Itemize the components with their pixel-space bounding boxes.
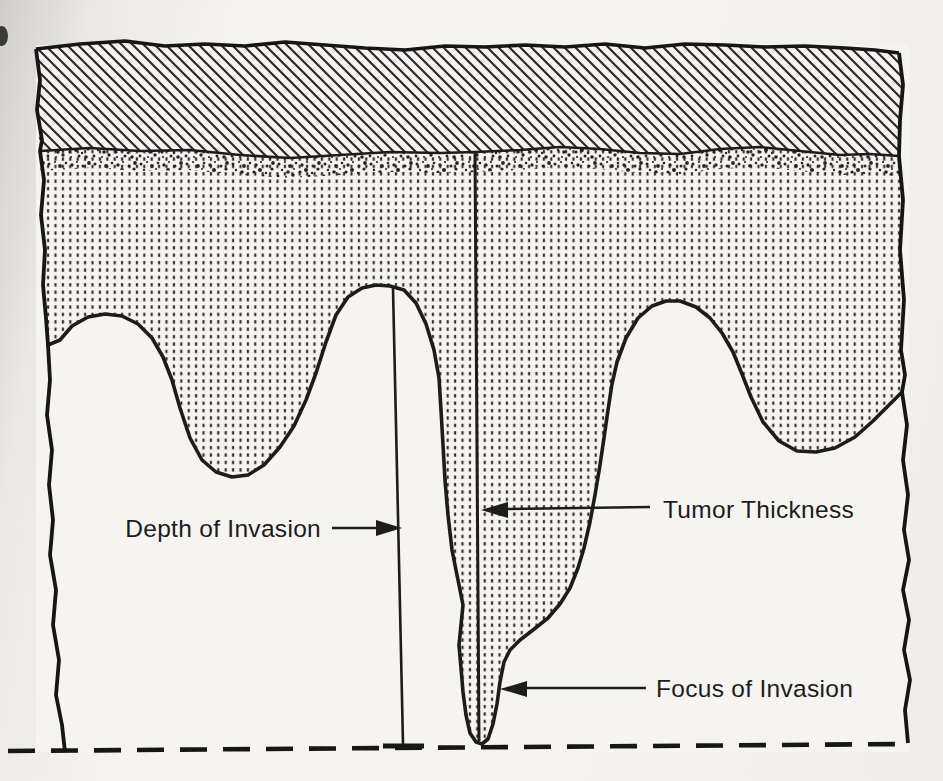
depth-of-invasion-label: Depth of Invasion — [125, 515, 321, 542]
focus-of-invasion-label: Focus of Invasion — [656, 675, 853, 702]
tumor-thickness-label: Tumor Thickness — [663, 496, 854, 523]
keratinized-surface-layer — [36, 41, 901, 158]
scan-artifact-blob — [0, 26, 8, 46]
diagram-page: Depth of Invasion Tumor Thickness Focus … — [0, 0, 943, 781]
tumor-depth-diagram: Depth of Invasion Tumor Thickness Focus … — [0, 0, 943, 781]
